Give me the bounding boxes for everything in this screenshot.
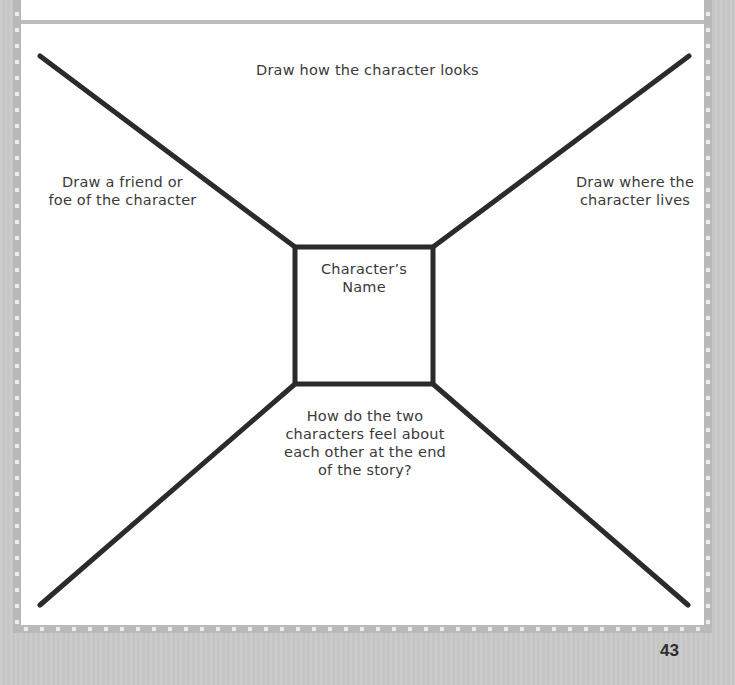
- prompt-bottom-line4: of the story?: [255, 461, 475, 479]
- character-name-label-line1: Character’s: [295, 260, 433, 278]
- prompt-left-line1: Draw a friend or: [20, 173, 225, 191]
- prompt-right-line2: character lives: [545, 191, 725, 209]
- prompt-left-line2: foe of the character: [20, 191, 225, 209]
- prompt-center: Character’s Name: [295, 260, 433, 296]
- diagonal-line-top-right: [433, 56, 689, 247]
- diagonal-line-top-left: [40, 56, 295, 247]
- prompt-top-text: Draw how the character looks: [256, 62, 479, 78]
- prompt-top: Draw how the character looks: [200, 61, 535, 79]
- page-number: 43: [660, 641, 679, 661]
- prompt-right: Draw where the character lives: [545, 173, 725, 209]
- prompt-right-line1: Draw where the: [545, 173, 725, 191]
- prompt-bottom-line3: each other at the end: [255, 443, 475, 461]
- prompt-bottom-line1: How do the two: [255, 407, 475, 425]
- character-name-label-line2: Name: [295, 278, 433, 296]
- prompt-left: Draw a friend or foe of the character: [20, 173, 225, 209]
- prompt-bottom: How do the two characters feel about eac…: [255, 407, 475, 479]
- prompt-bottom-line2: characters feel about: [255, 425, 475, 443]
- character-map-diagram: [0, 0, 735, 685]
